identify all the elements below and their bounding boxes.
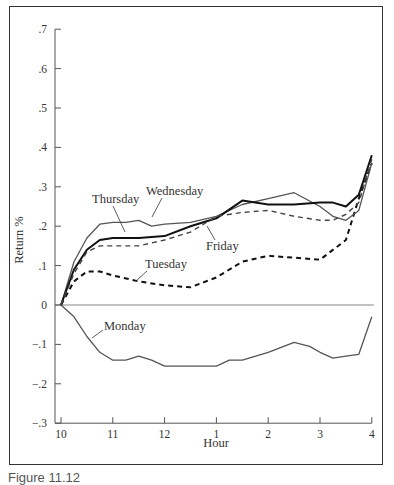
- y-tick-label: .1: [38, 260, 47, 272]
- y-axis-label: Return %: [12, 216, 26, 264]
- figure-caption: Figure 11.12: [8, 470, 80, 485]
- y-tick-label: .4: [38, 141, 47, 153]
- x-tick-label: 12: [159, 428, 171, 440]
- y-tick-label: 0: [41, 299, 47, 311]
- axes: .7.6.5.4.3.2.10−.1−.2−.31011121234: [32, 23, 375, 440]
- x-axis-label: Hour: [203, 436, 230, 450]
- x-tick-label: 10: [55, 428, 67, 440]
- arrow-tuesday: [136, 271, 147, 281]
- y-tick-label: −.2: [32, 378, 47, 390]
- arrow-wednesday: [152, 198, 162, 217]
- series-wednesday: [61, 163, 372, 305]
- x-tick-label: 3: [317, 428, 323, 440]
- arrow-monday: [92, 330, 103, 338]
- series-friday: [61, 159, 372, 305]
- x-tick-label: 2: [265, 428, 271, 440]
- arrow-friday: [207, 226, 215, 240]
- label-wednesday: Wednesday: [146, 184, 204, 198]
- y-tick-label: .3: [38, 181, 47, 193]
- x-tick-label: 11: [107, 428, 118, 440]
- label-tuesday: Tuesday: [145, 257, 188, 271]
- label-thursday: Thursday: [92, 192, 140, 206]
- annotations: Wednesday Thursday Friday Tuesday Monday: [92, 184, 239, 338]
- y-tick-label: .7: [38, 23, 47, 35]
- y-tick-label: −.1: [32, 338, 47, 350]
- series-tuesday: [61, 163, 372, 305]
- label-friday: Friday: [206, 239, 239, 253]
- series-thursday: [61, 155, 372, 305]
- label-monday: Monday: [104, 319, 146, 333]
- series-monday: [61, 305, 372, 366]
- y-tick-label: .5: [38, 102, 47, 114]
- y-tick-label: −.3: [32, 417, 47, 429]
- y-tick-label: .6: [38, 63, 47, 75]
- y-tick-label: .2: [38, 220, 47, 232]
- series-lines: [61, 155, 372, 366]
- x-tick-label: 4: [369, 428, 375, 440]
- arrow-thursday: [113, 206, 125, 232]
